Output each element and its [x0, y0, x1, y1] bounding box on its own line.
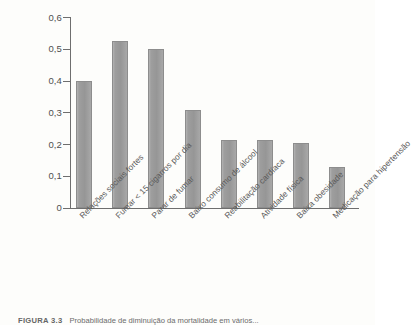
y-axis-tick-label: 0,3 [28, 108, 62, 118]
y-axis-tick [63, 208, 70, 209]
y-axis-line [70, 17, 71, 209]
y-axis-tick [63, 49, 70, 50]
bar [76, 81, 92, 208]
figure-caption-text: Probabilidade de diminuição da mortalida… [70, 316, 259, 325]
y-axis-tick [63, 112, 70, 113]
y-axis-tick [63, 144, 70, 145]
y-axis-tick-label: 0 [28, 203, 62, 213]
y-axis-tick [63, 17, 70, 18]
y-axis-tick [63, 176, 70, 177]
y-axis-tick-label: 0,4 [28, 76, 62, 86]
y-axis-tick-label: 0,2 [28, 140, 62, 150]
bar [185, 110, 201, 208]
y-axis-tick [63, 81, 70, 82]
y-axis-tick-labels: 0,60,50,40,30,20,10 [22, 0, 62, 325]
x-axis-line [70, 208, 359, 209]
figure-caption-label: FIGURA 3.3 [18, 316, 63, 325]
y-axis-tick-label: 0,6 [28, 13, 62, 23]
figure-caption: FIGURA 3.3Probabilidade de diminuição da… [18, 316, 368, 325]
y-axis-tick-label: 0,5 [28, 44, 62, 54]
y-axis-tick-label: 0,1 [28, 171, 62, 181]
